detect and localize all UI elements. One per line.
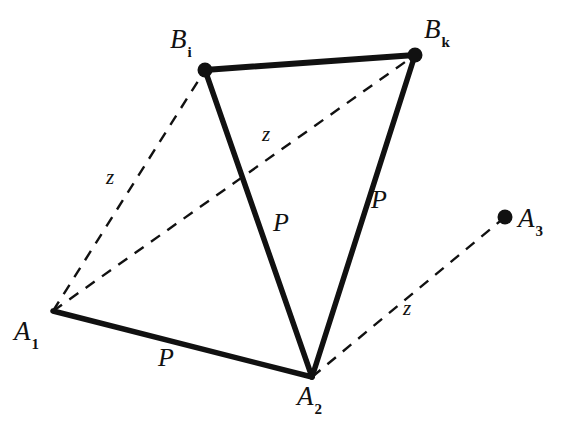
node-label-a3-sub: 3 <box>536 223 544 239</box>
node-label-bk: Bk <box>424 16 449 47</box>
node-label-bi-base: B <box>170 24 187 54</box>
edge-label-z-left: z <box>106 167 114 188</box>
edge-bi-a2 <box>205 70 312 377</box>
edge-label-z-right: z <box>403 298 411 319</box>
edge-a1-bi <box>53 70 205 311</box>
node-label-bk-base: B <box>424 14 441 44</box>
edge-bk-a2 <box>312 55 415 377</box>
edge-label-p-right: P <box>371 187 387 213</box>
node-label-a1-base: A <box>14 316 31 346</box>
node-label-bi-sub: i <box>188 44 192 60</box>
node-label-bk-sub: k <box>442 34 450 50</box>
edge-bi-bk <box>205 55 415 70</box>
node-label-bi: Bi <box>170 26 191 57</box>
node-label-a1: A1 <box>14 318 38 349</box>
edge-label-z-center: z <box>262 124 270 145</box>
node-dot-a3 <box>498 210 513 225</box>
edge-a1-a2 <box>53 311 312 377</box>
diagram-canvas: Bi Bk A1 A2 A3 P P P z z z <box>0 0 571 424</box>
node-label-a2: A2 <box>297 383 321 414</box>
node-label-a2-sub: 2 <box>315 401 323 417</box>
node-label-a3: A3 <box>518 205 542 236</box>
edge-label-p-center: P <box>273 210 289 236</box>
node-label-a2-base: A <box>297 381 314 411</box>
node-dot-bk <box>408 48 423 63</box>
node-label-a1-sub: 1 <box>32 336 40 352</box>
node-dot-bi <box>198 63 213 78</box>
edge-label-p-bottom: P <box>158 345 174 371</box>
node-label-a3-base: A <box>518 203 535 233</box>
